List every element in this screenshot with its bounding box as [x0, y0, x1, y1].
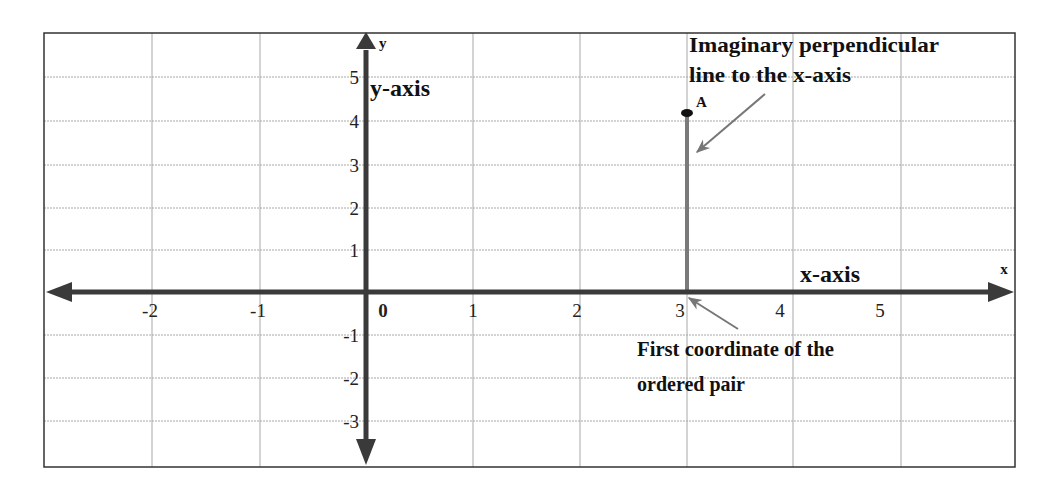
y-tick-p5: 5	[350, 67, 360, 88]
annotation-first-coord-line2: ordered pair	[637, 372, 745, 396]
x-tick-m2: -2	[142, 300, 158, 321]
point-a-label: A	[696, 94, 707, 110]
y-arrow-label: y	[379, 35, 387, 51]
annotation-first-coord-line1: First coordinate of the	[637, 337, 834, 361]
y-tick-p1: 1	[350, 240, 360, 261]
x-axis	[46, 282, 1014, 302]
annotation-first-coord-arrow-icon	[689, 298, 738, 329]
y-tick-m3: -3	[343, 411, 359, 432]
y-tick-m1: -1	[343, 325, 359, 346]
x-tick-p1: 1	[468, 300, 478, 321]
x-tick-p5: 5	[875, 300, 885, 321]
y-axis-up-arrow-icon	[356, 32, 376, 49]
y-tick-p4: 4	[350, 111, 360, 132]
x-tick-p4: 4	[775, 300, 785, 321]
coordinate-plane-diagram: y x y-axis x-axis -2 -1 0 1 2 3 4 5 5 4 …	[0, 0, 1053, 491]
x-tick-p3: 3	[675, 300, 685, 321]
x-tick-m1: -1	[250, 300, 266, 321]
annotation-perpendicular-line1: Imaginary perpendicular	[689, 33, 939, 57]
x-tick-labels: -2 -1 0 1 2 3 4 5	[142, 300, 885, 321]
annotation-first-coordinate: First coordinate of the ordered pair	[637, 298, 834, 396]
y-tick-p2: 2	[350, 198, 360, 219]
x-axis-left-arrow-icon	[46, 282, 72, 302]
y-axis-down-arrow-icon	[356, 439, 376, 465]
y-axis-title: y-axis	[370, 75, 430, 101]
x-axis-title: x-axis	[800, 261, 860, 287]
x-tick-origin: 0	[378, 300, 388, 321]
horizontal-gridlines	[44, 77, 1015, 421]
grid	[44, 33, 1015, 467]
x-arrow-label: x	[1000, 261, 1008, 277]
x-tick-p2: 2	[572, 300, 582, 321]
annotation-perpendicular-line2: line to the x-axis	[689, 63, 851, 87]
point-a-marker	[681, 109, 693, 117]
y-tick-m2: -2	[343, 368, 359, 389]
y-tick-p3: 3	[350, 155, 360, 176]
annotation-perpendicular-arrow-icon	[697, 94, 765, 152]
x-axis-right-arrow-icon	[988, 282, 1014, 302]
